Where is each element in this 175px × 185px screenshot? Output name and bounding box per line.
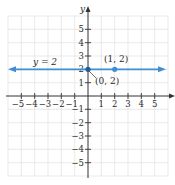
y-tick-label: 1 [79, 78, 84, 88]
right-arrow-icon [158, 66, 166, 72]
x-tick-label: −5 [12, 99, 25, 109]
x-tick-label: −3 [39, 99, 52, 109]
y-tick-label: −5 [71, 158, 84, 168]
y-tick-label: −2 [71, 118, 84, 128]
x-tick-label: 1 [99, 99, 104, 109]
line-label: y = 2 [32, 57, 57, 67]
x-axis [6, 94, 175, 99]
x-tick-labels: −5 −4 −3 −2 −1 1 2 3 4 5 [12, 99, 158, 109]
y-tick-label: 3 [79, 51, 84, 61]
point-0-2 [85, 67, 90, 72]
y-tick-label: 4 [79, 38, 84, 48]
y-tick-label: −1 [71, 104, 84, 114]
point-label-1-2: (1, 2) [104, 54, 128, 64]
y-tick-label: −3 [71, 131, 84, 141]
y-axis-label: y [79, 4, 86, 14]
x-tick-label: −2 [52, 99, 65, 109]
x-tick-label: −4 [25, 99, 38, 109]
y-tick-label: −4 [71, 144, 84, 154]
point-label-0-2: (0, 2) [95, 76, 119, 86]
point-1-2 [112, 67, 117, 72]
coordinate-plane: y −5 −4 −3 −2 −1 1 2 3 4 5 5 4 3 2 1 −1 … [0, 0, 175, 185]
x-tick-label: 5 [152, 99, 157, 109]
left-arrow-icon [8, 66, 16, 72]
y-tick-label: 5 [79, 24, 84, 34]
x-tick-label: 4 [139, 99, 144, 109]
x-tick-label: 2 [112, 99, 117, 109]
x-tick-label: 3 [125, 99, 130, 109]
